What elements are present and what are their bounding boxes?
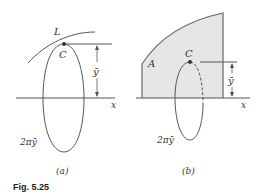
area-label: A <box>147 58 155 69</box>
axis-label-b: x <box>241 100 246 110</box>
axis-label-a: x <box>111 100 116 110</box>
curve-label: L <box>53 26 61 37</box>
arrow-up-a <box>95 45 99 50</box>
path-label-a: 2πȳ <box>19 137 38 147</box>
sublabel-a: (a) <box>56 166 69 176</box>
panel-b: A C ȳ x 2πȳ (b) <box>136 13 250 176</box>
arrow-up-b <box>230 63 234 68</box>
arrow-down-b <box>230 92 234 97</box>
area-a <box>142 13 223 98</box>
sublabel-b: (b) <box>182 166 195 176</box>
panel-a: L C ȳ x 2πȳ (a) <box>16 26 116 176</box>
centroid-dot-b <box>188 60 192 64</box>
figure-caption: Fig. 5.25 <box>13 182 49 192</box>
centroid-dot-a <box>62 42 66 46</box>
centroid-label-b: C <box>185 48 193 59</box>
distance-label-b: ȳ <box>227 75 234 86</box>
centroid-label-a: C <box>59 49 67 60</box>
distance-label-a: ȳ <box>92 66 99 77</box>
figure-canvas: L C ȳ x 2πȳ (a) A C ȳ x 2πȳ (b) Fig. 5.2… <box>0 0 261 195</box>
arrow-down-a <box>95 92 99 97</box>
path-label-b: 2πȳ <box>156 135 175 145</box>
